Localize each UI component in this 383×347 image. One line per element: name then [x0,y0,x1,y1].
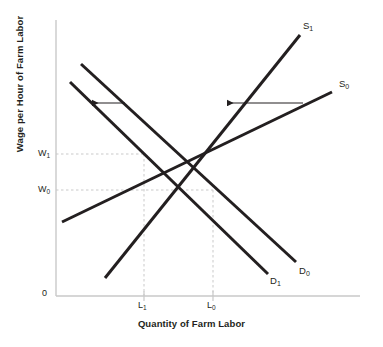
curve-d1-text: D [270,275,277,286]
curve-d0 [81,64,296,262]
x-axis-title: Quantity of Farm Labor [0,318,383,329]
chart-canvas [0,0,383,347]
origin-label: 0 [42,288,47,298]
y-tick-w0-subscript: 0 [47,188,51,195]
y-tick-label-w1: W1 [38,148,50,158]
supply-demand-chart: Wage per Hour of Farm Labor Quantity of … [0,0,383,347]
x-tick-label-l0: L0 [207,300,216,310]
y-axis-title-container: Wage per Hour of Farm Labor [14,0,28,179]
curve-label-s0: S0 [339,78,349,89]
y-axis-title: Wage per Hour of Farm Labor [14,0,25,179]
curve-label-s1: S1 [303,20,313,31]
curve-label-d1: D1 [270,275,281,286]
curve-d1-subscript: 1 [277,280,281,287]
x-tick-l1-subscript: 1 [143,304,147,311]
curve-s1 [105,35,300,278]
curve-s1-subscript: 1 [309,25,313,32]
x-tick-label-l1: L1 [138,300,147,310]
y-tick-w0-text: W [38,184,47,194]
y-tick-w1-subscript: 1 [47,152,51,159]
x-tick-l0-subscript: 0 [212,304,216,311]
curve-d0-text: D [299,265,306,276]
curve-d0-subscript: 0 [306,270,310,277]
y-tick-w1-text: W [38,148,47,158]
curve-label-d0: D0 [299,265,310,276]
curve-s0-subscript: 0 [345,83,349,90]
y-tick-label-w0: W0 [38,184,50,194]
